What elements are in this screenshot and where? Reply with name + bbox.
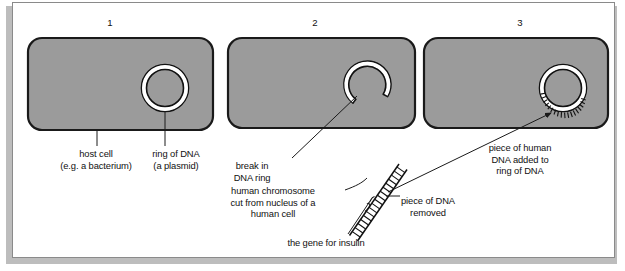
- panel-number-2: 2: [300, 17, 330, 28]
- diagram-graphics: [0, 0, 625, 271]
- label-piece-of-dna-removed: piece of DNA removed: [386, 195, 470, 218]
- label-gene-for-insulin: the gene for insulin: [258, 237, 394, 249]
- label-piece-of-human-dna-added: piece of human DNA added to ring of DNA: [464, 142, 576, 177]
- diagram-canvas: 1 2 3 host cell (e.g. a bacterium) ring …: [0, 0, 625, 271]
- leader-human-chromosome: [345, 178, 367, 190]
- panel-number-3: 3: [505, 17, 535, 28]
- panel-number-1: 1: [95, 17, 125, 28]
- label-human-chromosome: human chromosome cut from nucleus of a h…: [200, 185, 346, 220]
- label-break-in-dna-ring: break in DNA ring: [212, 160, 292, 183]
- label-ring-of-dna: ring of DNA (a plasmid): [128, 148, 224, 171]
